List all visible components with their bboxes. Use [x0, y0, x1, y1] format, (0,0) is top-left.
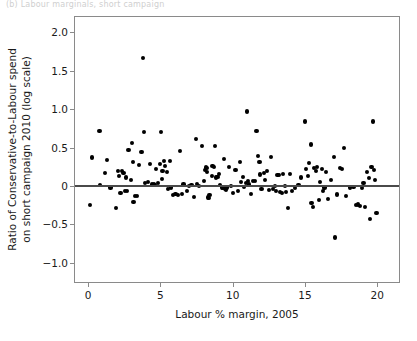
x-tick-label: 10 — [226, 289, 239, 301]
data-point — [160, 169, 164, 173]
data-point — [324, 170, 328, 174]
plot-area: 2.01.51.00.50−0.5−1.0 05101520 — [74, 16, 400, 283]
y-axis-title-line-2: on short campaign 2010 (log scale) — [19, 48, 33, 251]
data-point — [213, 144, 217, 148]
data-point — [137, 163, 141, 167]
data-point — [254, 129, 258, 133]
data-point — [236, 189, 240, 193]
data-point — [368, 217, 372, 221]
data-point — [363, 205, 367, 209]
data-point — [299, 175, 303, 179]
y-tick-label: −1.0 — [43, 257, 69, 269]
data-point — [158, 162, 162, 166]
data-point — [311, 205, 315, 209]
data-point — [194, 137, 198, 141]
data-point — [90, 155, 94, 159]
data-point — [372, 168, 376, 172]
data-point — [269, 155, 273, 159]
data-point — [192, 195, 196, 199]
x-tick-label: 5 — [157, 289, 164, 301]
data-point — [212, 165, 216, 169]
data-point — [335, 192, 339, 196]
data-point — [263, 178, 267, 182]
data-point — [365, 170, 369, 174]
y-tick-mark — [70, 32, 75, 33]
scatter-plot-figure: (b) Labour marginals, short campaign 2.0… — [0, 0, 417, 341]
data-point — [163, 164, 167, 168]
data-point — [217, 172, 221, 176]
data-point — [205, 170, 209, 174]
data-point — [288, 172, 292, 176]
data-point — [105, 158, 109, 162]
data-point — [103, 171, 107, 175]
data-point — [373, 178, 377, 182]
data-point — [360, 186, 364, 190]
data-point — [256, 154, 260, 158]
y-tick-label: 1.5 — [51, 65, 68, 77]
data-point — [168, 159, 172, 163]
data-point — [160, 177, 164, 181]
data-point — [329, 178, 333, 182]
data-point — [117, 174, 121, 178]
data-point — [318, 180, 322, 184]
y-tick-mark — [70, 109, 75, 110]
data-point — [306, 174, 310, 178]
data-point — [131, 160, 135, 164]
data-point — [129, 178, 133, 182]
data-point — [304, 167, 308, 171]
y-tick-mark — [70, 186, 75, 187]
x-tick-label: 15 — [298, 289, 311, 301]
data-point — [114, 206, 118, 210]
x-tick-mark — [377, 282, 378, 287]
data-point — [281, 172, 285, 176]
data-point — [227, 165, 231, 169]
data-point — [139, 150, 143, 154]
y-axis-title: Ratio of Conservative-to-Labour spend on… — [2, 16, 36, 283]
y-axis-title-line-1: Ratio of Conservative-to-Labour spend — [5, 48, 19, 251]
x-tick-mark — [160, 282, 161, 287]
data-point — [124, 175, 128, 179]
data-point — [332, 155, 336, 159]
data-point — [314, 169, 318, 173]
y-tick-label: 2.0 — [51, 26, 68, 38]
data-point — [135, 194, 139, 198]
data-point — [253, 179, 257, 183]
data-point — [185, 189, 189, 193]
data-point — [118, 191, 122, 195]
data-point — [315, 165, 319, 169]
data-point — [257, 160, 261, 164]
data-point — [367, 176, 371, 180]
y-tick-mark — [70, 263, 75, 264]
data-point — [333, 235, 337, 239]
data-point — [309, 142, 313, 146]
data-point — [178, 149, 182, 153]
data-point — [286, 206, 290, 210]
data-point — [371, 119, 375, 123]
data-point — [340, 167, 344, 171]
data-point — [141, 56, 145, 60]
zero-reference-line — [75, 185, 399, 186]
data-point — [207, 193, 211, 197]
data-point — [126, 148, 130, 152]
data-point — [342, 146, 346, 150]
data-point — [249, 192, 253, 196]
data-point — [88, 203, 92, 207]
y-tick-label: 0.5 — [51, 142, 68, 154]
data-point — [233, 168, 237, 172]
data-point — [374, 211, 378, 215]
data-point — [344, 194, 348, 198]
data-point — [307, 161, 311, 165]
data-point — [245, 109, 249, 113]
y-tick-label: 1.0 — [51, 103, 68, 115]
data-point — [317, 198, 321, 202]
data-point — [259, 187, 263, 191]
data-point — [180, 192, 184, 196]
data-point — [202, 179, 206, 183]
data-point — [142, 130, 146, 134]
data-point — [326, 197, 330, 201]
data-point — [241, 175, 245, 179]
y-tick-mark — [70, 71, 75, 72]
data-point — [358, 204, 362, 208]
data-point — [231, 191, 235, 195]
y-tick-label: 0 — [61, 180, 68, 192]
